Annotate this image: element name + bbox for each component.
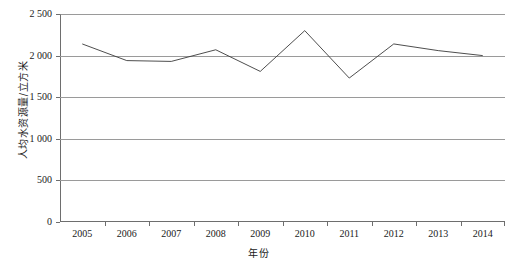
- plot-area: [60, 14, 505, 222]
- y-axis-tick-label: 1 500: [30, 92, 53, 102]
- x-axis-tick-label: 2012: [384, 228, 404, 240]
- x-axis-tick-label: 2008: [206, 228, 226, 240]
- series-line-per-capita-water: [82, 31, 483, 78]
- x-axis-tick: [194, 222, 195, 226]
- x-axis-tick: [504, 222, 505, 226]
- y-axis-tick-label: 0: [47, 217, 52, 227]
- x-axis-tick: [372, 222, 373, 226]
- x-axis-tick-label: 2010: [295, 228, 315, 240]
- x-axis-tick: [416, 222, 417, 226]
- water-resources-line-chart: 人均水资源量/立方米 05001 0001 5002 0002 500 2005…: [0, 0, 517, 274]
- x-axis-tick-label: 2009: [250, 228, 270, 240]
- y-axis-tick: [56, 222, 60, 223]
- y-axis-tick-labels: 05001 0001 5002 0002 500: [0, 0, 56, 274]
- x-axis-tick-label: 2011: [339, 228, 359, 240]
- x-axis-title: 年份: [0, 248, 517, 260]
- x-axis-tick: [105, 222, 106, 226]
- x-axis-tick: [149, 222, 150, 226]
- x-axis-tick: [283, 222, 284, 226]
- x-axis-tick-label: 2005: [72, 228, 92, 240]
- x-axis-tick: [461, 222, 462, 226]
- x-axis-tick-labels: 2005200620072008200920102011201220132014: [60, 228, 505, 242]
- x-axis-tick-label: 2006: [117, 228, 137, 240]
- x-axis-tick-label: 2007: [161, 228, 181, 240]
- y-axis-tick-label: 1 000: [30, 134, 53, 144]
- x-axis-tick: [238, 222, 239, 226]
- x-axis-tick-label: 2013: [428, 228, 448, 240]
- y-axis-tick-label: 2 500: [30, 9, 53, 19]
- x-axis-tick: [327, 222, 328, 226]
- series-line-group: [60, 14, 505, 222]
- x-axis-tick-label: 2014: [473, 228, 493, 240]
- y-axis-tick-label: 2 000: [30, 51, 53, 61]
- y-axis-tick-label: 500: [37, 175, 52, 185]
